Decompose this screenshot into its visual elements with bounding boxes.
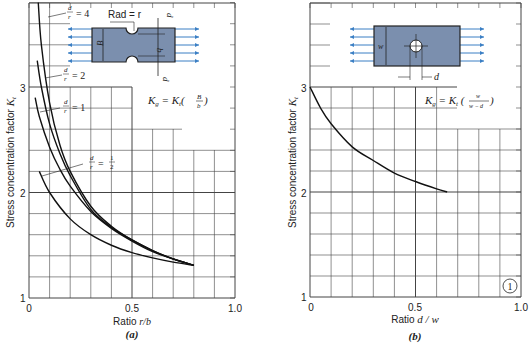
svg-text:Kg = Kt(: Kg = Kt( [147,94,186,108]
label-b: b [155,48,165,53]
svg-text:r: r [64,75,67,83]
holed-plate-diagram: w d [350,26,484,82]
svg-text:r: r [64,107,67,115]
svg-text:1: 1 [110,154,114,162]
svg-text:0: 0 [308,302,314,313]
rad-label: Rad = r [108,9,142,20]
y-axis-label-b: Stress concentration factor Kt [286,96,300,228]
svg-text:3: 3 [301,83,307,94]
caption-a: (a) [126,328,139,341]
svg-text:1.0: 1.0 [514,302,528,313]
svg-text:r: r [68,13,71,21]
label-B: B [95,40,105,46]
label-d-top: d [165,13,175,18]
svg-text:b: b [197,102,201,110]
svg-text:d: d [64,66,68,74]
curve-d-r-1 [35,98,194,266]
formula-a: Kg = Kt( B b ) [147,93,208,110]
svg-text:0.5: 0.5 [408,302,422,313]
svg-text:= 2: = 2 [72,70,85,81]
svg-text:Kg = Kt (: Kg = Kt ( [424,94,466,108]
svg-text:=: = [98,158,104,169]
svg-text:2: 2 [20,188,26,199]
svg-text:3: 3 [20,83,26,94]
svg-text:0.5: 0.5 [125,303,139,314]
svg-text:2: 2 [110,163,114,171]
svg-text:= 1: = 1 [72,102,85,113]
svg-text:1.0: 1.0 [228,303,242,314]
svg-text:= 4: = 4 [76,8,89,19]
svg-text:d: d [68,4,72,12]
svg-text:): ) [489,94,494,107]
label-w: w [378,42,384,51]
svg-text:d: d [90,154,94,162]
svg-text:w − d: w − d [469,103,484,109]
notched-plate-diagram: B b d d Rad = r [68,9,199,82]
axis-a: 3 2 1 0 0.5 1.0 Ratio r/b (a) Stress con… [4,83,242,341]
svg-text:0: 0 [26,303,32,314]
label-d-bottom: d [161,77,171,82]
caption-b: (b) [409,330,422,343]
svg-text:1: 1 [301,292,307,303]
svg-text:): ) [203,94,208,107]
x-axis-label-b: Ratio d / w [391,313,439,325]
svg-text:1: 1 [508,281,513,292]
label-d: d [434,71,440,82]
x-axis-label-a: Ratio r/b [113,316,151,327]
curve-d-r-1-2 [39,171,194,265]
y-axis-label-a: Stress concentration factor Kt [4,96,18,228]
svg-text:1: 1 [20,293,26,304]
svg-text:B: B [197,93,202,101]
svg-text:w: w [476,93,480,99]
svg-text:2: 2 [301,188,307,199]
svg-text:d: d [64,98,68,106]
chart-figure: B b d d Rad = r w d Kg = Kt( B b ) Kg = … [0,0,531,348]
formula-b: Kg = Kt ( w w − d ) [424,93,494,109]
svg-text:r: r [90,163,93,171]
